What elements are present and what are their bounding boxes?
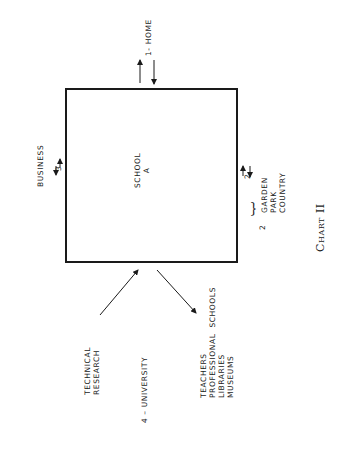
teachers-label: TEACHERS xyxy=(199,287,208,398)
caption-numeral: II xyxy=(314,203,327,213)
school-label-line2: A xyxy=(142,153,151,188)
school-box xyxy=(65,88,238,263)
chart-caption: Chart II xyxy=(314,203,327,252)
school-label-line1: SCHOOL xyxy=(133,153,142,188)
outdoor-group-number: 2 xyxy=(258,225,267,230)
business-number: 3 xyxy=(54,166,63,171)
outbound-list: TEACHERS PROFESSIONAL SCHOOLS LIBRARIES … xyxy=(199,287,235,398)
university-label: 4 – UNIVERSITY xyxy=(140,357,149,423)
professional-schools-label: PROFESSIONAL SCHOOLS xyxy=(208,287,217,398)
outdoor-item-country: COUNTRY xyxy=(278,173,287,213)
teachers-arrow xyxy=(157,270,196,313)
business-label: BUSINESS xyxy=(36,145,45,187)
technical-label: TECHNICAL xyxy=(83,347,92,395)
outdoor-arrow-number: 2 xyxy=(243,174,252,179)
technical-research-arrow xyxy=(100,270,138,315)
school-label: SCHOOL A xyxy=(133,153,151,188)
diagram-canvas: SCHOOL A 1- HOME BUSINESS 3 2 GARDEN PAR… xyxy=(0,0,350,450)
technical-research-label: TECHNICAL RESEARCH xyxy=(83,347,101,395)
outdoor-brace: ︸ xyxy=(252,201,269,216)
libraries-label: LIBRARIES xyxy=(217,287,226,398)
outdoor-item-park: PARK xyxy=(269,173,278,213)
home-label: 1- HOME xyxy=(144,19,153,56)
research-label: RESEARCH xyxy=(92,347,101,395)
caption-word: Chart xyxy=(314,217,327,252)
museums-label: MUSEUMS xyxy=(226,287,235,398)
